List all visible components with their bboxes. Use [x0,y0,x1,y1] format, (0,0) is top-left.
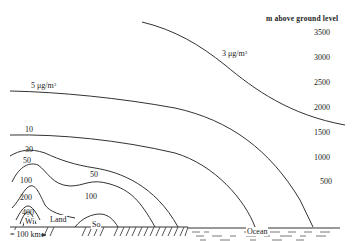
contour-label-50-south: 50 [90,170,98,179]
axis-title: m above ground level [266,14,338,23]
tick-2500: 2500 [314,78,330,87]
contour-label-100-south: 100 [85,192,97,201]
contour-label-5: 5 μg/m3 [31,81,56,90]
scale-label: = 100 km [10,230,41,239]
contour-label-3: 3 μg/m3 [222,49,247,58]
region-label-ocean: Ocean [246,227,268,236]
contour-label-50-west: 50 [23,156,31,165]
contour-label-10: 10 [25,125,33,134]
tick-3000: 3000 [314,53,330,62]
contour-label-30: 30 [25,145,33,154]
region-label-so: So [91,220,101,229]
contour-label-400: 400 [22,208,34,217]
tick-1500: 1500 [314,128,330,137]
contour-label-100-west: 100 [20,176,32,185]
contour-label-200: 200 [20,193,32,202]
region-label-wi: Wi [24,217,35,226]
tick-3500: 3500 [314,28,330,37]
tick-500: 500 [320,177,332,186]
region-label-land: Land [49,215,67,224]
tick-2000: 2000 [314,103,330,112]
concentration-contour-diagram [0,0,354,241]
contour-5 [10,91,313,227]
tick-1000: 1000 [314,153,330,162]
contour-10 [10,135,255,227]
contour-30 [10,150,178,227]
